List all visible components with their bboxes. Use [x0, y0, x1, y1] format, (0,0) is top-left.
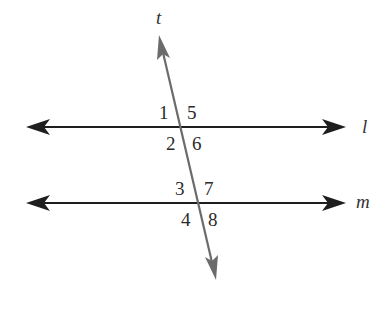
label-t: t — [156, 7, 162, 28]
label-m: m — [356, 191, 370, 212]
angle-label-1: 1 — [159, 102, 169, 123]
angle-label-5: 5 — [187, 102, 197, 123]
angle-label-2: 2 — [166, 133, 176, 154]
angle-label-4: 4 — [181, 209, 191, 230]
transversal-t — [157, 35, 218, 280]
angle-label-6: 6 — [192, 133, 202, 154]
label-l: l — [362, 116, 367, 137]
angle-label-8: 8 — [208, 209, 218, 230]
angle-label-3: 3 — [175, 178, 185, 199]
angle-label-7: 7 — [204, 178, 214, 199]
line-l — [26, 119, 346, 135]
parallel-lines-transversal-diagram: t l m 1 5 2 6 3 7 4 8 — [0, 0, 392, 310]
